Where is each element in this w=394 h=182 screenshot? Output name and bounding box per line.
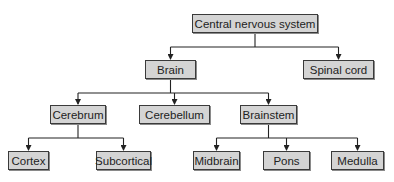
node-label: Cerebellum bbox=[145, 109, 204, 121]
node-medulla: Medulla bbox=[331, 151, 384, 170]
node-cerebellum: Cerebellum bbox=[139, 105, 210, 124]
node-midbrain: Midbrain bbox=[193, 151, 240, 170]
node-label: Brainstem bbox=[243, 109, 295, 121]
node-pons: Pons bbox=[263, 151, 310, 170]
node-brainstem: Brainstem bbox=[240, 105, 297, 124]
node-spinal-cord: Spinal cord bbox=[303, 60, 374, 79]
node-label: Cortex bbox=[12, 155, 46, 167]
node-label: Medulla bbox=[337, 155, 377, 167]
node-label: Cerebrum bbox=[52, 109, 103, 121]
node-label: Subcortical bbox=[95, 155, 152, 167]
node-label: Central nervous system bbox=[195, 18, 316, 30]
node-label: Pons bbox=[273, 155, 299, 167]
node-subcortical: Subcortical bbox=[96, 151, 151, 170]
node-brain: Brain bbox=[145, 60, 196, 79]
node-cerebrum: Cerebrum bbox=[50, 105, 106, 124]
nervous-system-hierarchy-diagram: Central nervous system Brain Spinal cord… bbox=[0, 0, 394, 182]
node-label: Brain bbox=[157, 64, 184, 76]
node-label: Midbrain bbox=[194, 155, 238, 167]
node-label: Spinal cord bbox=[310, 64, 368, 76]
node-central-nervous-system: Central nervous system bbox=[192, 14, 318, 33]
node-cortex: Cortex bbox=[8, 151, 49, 170]
